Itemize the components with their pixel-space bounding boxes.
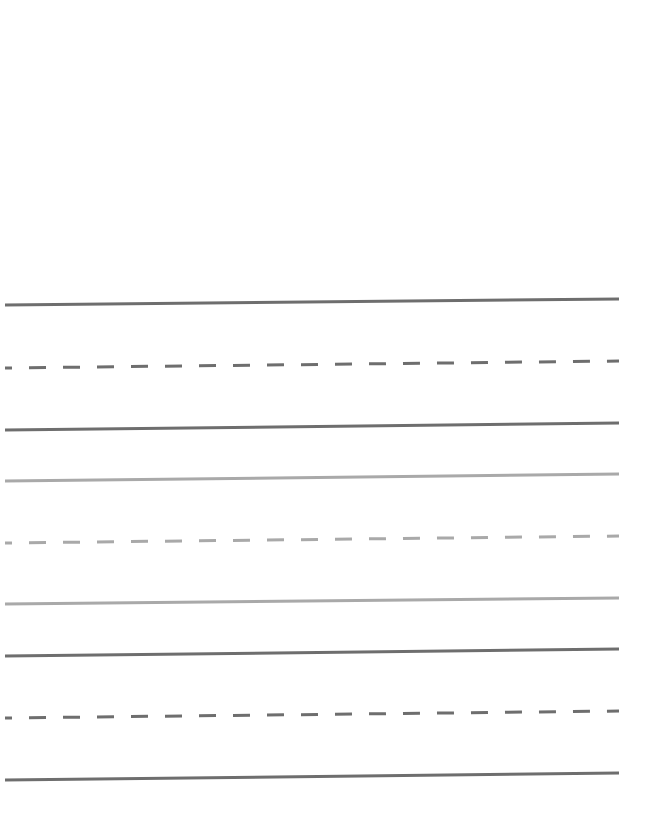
practice-sheet — [0, 0, 661, 834]
top-line-solid — [5, 474, 619, 481]
line-group-3 — [5, 649, 619, 780]
top-line-solid — [5, 649, 619, 656]
base-line-solid — [5, 598, 619, 604]
midline-dashed — [5, 711, 619, 718]
line-group-1 — [5, 299, 619, 430]
midline-dashed — [5, 536, 619, 543]
midline-dashed — [5, 361, 619, 368]
line-group-2 — [5, 474, 619, 604]
base-line-solid — [5, 423, 619, 430]
top-line-solid — [5, 299, 619, 305]
base-line-solid — [5, 773, 619, 780]
